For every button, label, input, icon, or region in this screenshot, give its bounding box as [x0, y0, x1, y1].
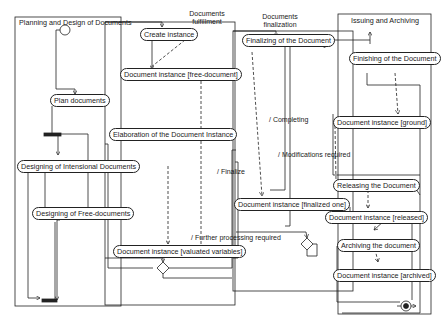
lane-title-line: finalization: [256, 21, 304, 29]
activity-designing-free[interactable]: Designing of Free-documents: [32, 207, 134, 220]
lane-title-finalization: Documents finalization: [256, 13, 304, 29]
activity-elaboration[interactable]: Elaboration of the Document Instance: [109, 128, 237, 141]
activity-designing-intensional[interactable]: Designing of Intensional Documents: [17, 160, 140, 173]
activity-archiving[interactable]: Archiving the document: [337, 239, 420, 252]
lane-title-line: fulfillment: [183, 18, 231, 26]
activity-finalizing[interactable]: Finalizing of the Document: [242, 34, 335, 47]
decision-node-2: [301, 238, 313, 250]
lane-title-fulfillment: Documents fulfillment: [183, 10, 231, 26]
lane-title-planning: Planning and Design of Documents: [19, 18, 132, 27]
lane-title-issuing: Issuing and Archiving: [351, 16, 419, 25]
lane-title-line: Documents: [256, 13, 304, 21]
fork-bar: [44, 133, 61, 136]
label-further-processing: / Further processing required: [191, 234, 281, 242]
object-doc-finalized[interactable]: Document instance [finalized one]: [234, 198, 350, 211]
object-doc-ground[interactable]: Document instance [ground]: [333, 116, 431, 129]
activity-create-instance[interactable]: Create instance: [140, 28, 198, 41]
join-bar: [42, 299, 57, 302]
object-doc-valuated[interactable]: Document instance [valuated variables]: [113, 245, 246, 258]
object-doc-archived[interactable]: Document instance [archived]: [333, 269, 436, 282]
label-completing: / Completing: [269, 116, 308, 124]
activity-finishing[interactable]: Finishing of the Document: [349, 52, 441, 65]
label-finalize: / Finalize: [217, 168, 245, 176]
object-doc-free[interactable]: Document instance [free-document]: [120, 68, 242, 81]
activity-plan-documents[interactable]: Plan documents: [50, 94, 110, 107]
lane-title-line: Documents: [183, 10, 231, 18]
label-modifications: / Modifications required: [278, 151, 350, 159]
object-doc-released[interactable]: Document instance [released]: [325, 211, 428, 224]
activity-releasing[interactable]: Releasing the Document: [333, 179, 420, 192]
decision-node-1: [157, 262, 169, 274]
